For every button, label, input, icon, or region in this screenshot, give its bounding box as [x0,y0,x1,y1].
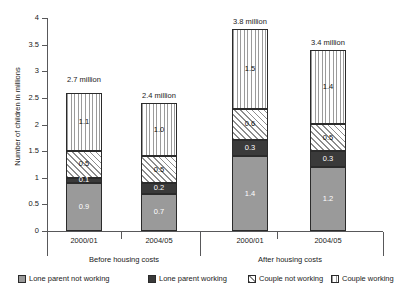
bar-segment-value: 0.5 [154,166,164,174]
y-axis-tick [42,18,47,19]
legend-item[interactable]: Lone parent not working [18,275,109,283]
bar-segment-value: 0.1 [79,176,89,184]
legend-item[interactable]: Couple working [331,275,394,283]
bar-segment[interactable]: 0.3 [310,151,346,167]
x-axis-category-label: 2000/01 [210,236,290,245]
bar-segment[interactable]: 0.2 [141,183,177,194]
y-axis-tick-label: 3.5 [0,41,39,49]
bar-total-label: 3.8 million [205,17,295,26]
bar-segment-value: 0.5 [79,160,89,168]
bar-segment-value: 0.6 [245,120,255,128]
bar-segment-value: 0.3 [245,144,255,152]
x-axis-category-label: 2004/05 [119,236,199,245]
y-axis-tick-label: 2 [0,121,39,129]
y-axis-tick [42,45,47,46]
bar-segment-value: 0.2 [154,184,164,192]
bar-segment[interactable]: 0.1 [66,178,102,183]
bar-segment-value: 1.1 [79,118,89,126]
y-axis-tick-label: 4 [0,14,39,22]
y-axis-tick [42,98,47,99]
bar-segment-value: 1.4 [245,190,255,198]
x-axis-separator [200,232,201,256]
legend-swatch [18,275,26,283]
bar-segment[interactable]: 1.5 [232,29,268,109]
y-axis-tick [42,125,47,126]
y-axis-tick-label: 3 [0,67,39,75]
x-axis-category-label: 2000/01 [44,236,124,245]
bar-segment-value: 1.0 [154,126,164,134]
bar-segment-value: 1.5 [245,65,255,73]
stacked-bar[interactable]: 0.70.20.51.0 [141,103,177,231]
x-axis-group-label: After housing costs [230,255,350,264]
x-axis-category-label: 2004/05 [288,236,368,245]
stacked-bar[interactable]: 1.20.30.51.4 [310,50,346,231]
legend-label: Lone parent working [159,275,227,283]
stacked-bar[interactable]: 0.90.10.51.1 [66,87,102,231]
y-axis-tick-label: 1 [0,174,39,182]
bar-segment-value: 0.5 [323,134,333,142]
bar-segment[interactable]: 1.0 [141,103,177,156]
x-axis-group-label: Before housing costs [64,255,184,264]
bar-segment[interactable]: 0.9 [66,183,102,231]
bar-segment[interactable]: 0.6 [232,109,268,141]
bar-total-label: 2.7 million [39,75,129,84]
x-axis-line [47,231,383,232]
bar-segment[interactable]: 0.5 [141,156,177,183]
bar-segment[interactable]: 1.4 [232,156,268,231]
x-axis-separator [383,232,384,256]
y-axis-tick-label: 1.5 [0,147,39,155]
bar-segment[interactable]: 0.5 [310,124,346,151]
bar-segment-value: 0.3 [323,155,333,163]
legend-label: Couple working [342,275,394,283]
bar-total-label: 3.4 million [283,38,373,47]
y-axis-tick-label: 0 [0,227,39,235]
legend-swatch [248,275,256,283]
y-axis-tick-label: 0.5 [0,200,39,208]
bar-segment-value: 1.2 [323,195,333,203]
bar-segment[interactable]: 1.1 [66,93,102,152]
legend-label: Lone parent not working [29,275,109,283]
bar-segment[interactable]: 0.3 [232,140,268,156]
bar-segment[interactable]: 0.5 [66,151,102,178]
y-axis-tick [42,204,47,205]
stacked-bar[interactable]: 1.40.30.61.5 [232,29,268,231]
bar-total-label: 2.4 million [114,91,204,100]
bar-segment[interactable]: 0.7 [141,194,177,231]
y-axis-tick [42,151,47,152]
legend-swatch [331,275,339,283]
bar-segment-value: 0.7 [154,208,164,216]
bar-segment-value: 0.9 [79,203,89,211]
bar-segment-value: 1.4 [323,83,333,91]
y-axis-tick [42,71,47,72]
chart-legend: Lone parent not workingLone parent worki… [0,275,393,289]
bar-segment[interactable]: 1.4 [310,50,346,125]
legend-swatch [148,275,156,283]
legend-item[interactable]: Lone parent working [148,275,227,283]
legend-label: Couple not working [259,275,323,283]
legend-item[interactable]: Couple not working [248,275,323,283]
y-axis-tick-label: 2.5 [0,94,39,102]
bar-segment[interactable]: 1.2 [310,167,346,231]
y-axis-line [47,18,48,231]
y-axis-tick [42,178,47,179]
